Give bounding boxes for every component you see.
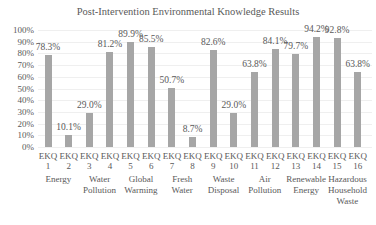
bar <box>292 54 299 147</box>
bar <box>272 49 279 147</box>
data-label: 81.2% <box>98 39 123 49</box>
data-label: 79.7% <box>284 41 309 51</box>
x-tick-label: EKQ3 <box>80 151 99 171</box>
y-tick-label: 90% <box>0 37 34 47</box>
x-tick-label: EKQ15 <box>328 151 347 171</box>
data-label: 63.8% <box>242 59 267 69</box>
gridline <box>38 77 372 78</box>
data-label: 50.7% <box>160 75 185 85</box>
y-tick-label: 100% <box>0 25 34 35</box>
bar <box>189 137 196 147</box>
y-tick-label: 40% <box>0 95 34 105</box>
bar <box>106 52 113 147</box>
category-group-label: Fresh Water <box>172 174 193 196</box>
y-tick-label: 10% <box>0 130 34 140</box>
category-group-label: Global Warming <box>124 174 157 196</box>
bar <box>127 42 134 147</box>
x-tick-label: EKQ2 <box>59 151 78 171</box>
x-tick-label: EKQ10 <box>225 151 244 171</box>
bar <box>313 37 320 147</box>
data-label: 63.8% <box>345 59 370 69</box>
data-label: 29.0% <box>222 100 247 110</box>
bar <box>86 113 93 147</box>
x-tick-label: EKQ6 <box>142 151 161 171</box>
x-tick-label: EKQ13 <box>287 151 306 171</box>
bar <box>148 47 155 147</box>
bar <box>354 72 361 147</box>
x-tick-label: EKQ16 <box>349 151 368 171</box>
category-group-label: Hazardous Household Waste <box>328 174 367 207</box>
data-label: 8.7% <box>183 124 203 134</box>
x-tick-label: EKQ1 <box>39 151 58 171</box>
x-tick-label: EKQ12 <box>266 151 285 171</box>
y-tick-label: 20% <box>0 119 34 129</box>
category-group-label: Water Pollution <box>83 174 116 196</box>
category-group-label: Renewable Energy <box>286 174 326 196</box>
bar <box>230 113 237 147</box>
bar <box>168 88 175 147</box>
y-tick-label: 0% <box>0 142 34 152</box>
bar <box>45 55 52 147</box>
x-tick-label: EKQ9 <box>204 151 223 171</box>
data-label: 82.6% <box>201 37 226 47</box>
bar <box>210 50 217 147</box>
data-label: 10.1% <box>56 122 81 132</box>
y-tick-label: 30% <box>0 107 34 117</box>
x-tick-label: EKQ11 <box>245 151 264 171</box>
x-tick-label: EKQ14 <box>307 151 326 171</box>
x-tick-label: EKQ5 <box>121 151 140 171</box>
category-group-label: Waste Disposal <box>208 174 240 196</box>
x-tick-label: EKQ7 <box>163 151 182 171</box>
data-label: 29.0% <box>77 100 102 110</box>
data-label: 92.8% <box>325 25 350 35</box>
y-tick-label: 50% <box>0 84 34 94</box>
bar <box>251 72 258 147</box>
y-tick-label: 80% <box>0 48 34 58</box>
x-tick-label: EKQ4 <box>101 151 120 171</box>
gridline <box>38 53 372 54</box>
data-label: 85.5% <box>139 34 164 44</box>
chart-title: Post-Intervention Environmental Knowledg… <box>0 6 376 17</box>
category-group-label: Air Pollution <box>248 174 281 196</box>
gridline <box>38 89 372 90</box>
bar <box>334 38 341 147</box>
x-tick-label: EKQ8 <box>183 151 202 171</box>
bar <box>65 135 72 147</box>
gridline <box>38 147 372 148</box>
y-tick-label: 60% <box>0 72 34 82</box>
plot-area: 78.3%10.1%29.0%81.2%89.9%85.5%50.7%8.7%8… <box>38 30 372 147</box>
gridline <box>38 65 372 66</box>
category-group-label: Energy <box>45 174 71 185</box>
y-tick-label: 70% <box>0 60 34 70</box>
data-label: 78.3% <box>36 42 61 52</box>
